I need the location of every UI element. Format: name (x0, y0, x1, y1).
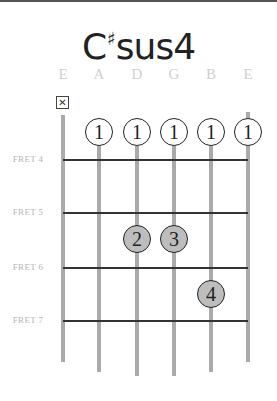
finger-dot: 2 (123, 225, 151, 253)
finger-dot: 1 (85, 118, 113, 146)
string-note-label: A (89, 66, 109, 83)
fret-line (63, 320, 248, 322)
finger-dot: 3 (160, 225, 188, 253)
muted-string-x-icon: ✕ (56, 96, 69, 109)
guitar-string (61, 115, 65, 362)
top-border (0, 0, 277, 2)
finger-dot: 1 (123, 118, 151, 146)
fret-line (63, 267, 248, 269)
sharp-symbol: ♯ (107, 28, 115, 49)
string-note-label: E (53, 66, 73, 83)
fret-line (63, 159, 248, 161)
string-note-label: G (164, 66, 184, 83)
finger-dot: 1 (234, 118, 262, 146)
string-note-label: B (201, 66, 221, 83)
finger-dot: 1 (197, 118, 225, 146)
fret-line (63, 212, 248, 214)
guitar-string (135, 146, 139, 376)
fret-label: FRET 4 (0, 154, 56, 164)
string-note-label: E (238, 66, 258, 83)
guitar-string (209, 146, 213, 372)
chord-root: C (82, 26, 106, 67)
finger-dot: 4 (197, 280, 225, 308)
finger-dot: 1 (160, 118, 188, 146)
fret-label: FRET 5 (0, 207, 56, 217)
fret-label: FRET 7 (0, 315, 56, 325)
chord-title: C♯sus4 (0, 17, 277, 69)
string-note-label: D (127, 66, 147, 83)
guitar-string (172, 146, 176, 376)
fret-label: FRET 6 (0, 262, 56, 272)
guitar-string (246, 112, 250, 362)
guitar-string (97, 146, 101, 372)
chord-quality: sus4 (116, 26, 195, 67)
